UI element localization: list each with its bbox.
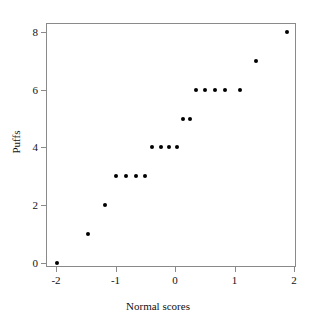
y-axis-tick-label: 6 [18,84,38,96]
normal-probability-plot: -2-101202468 Normal scores Puffs [0,0,316,324]
y-axis-tick-label: 0 [18,257,38,269]
x-axis-tick-label: 1 [223,274,247,286]
x-axis-tick-label: -2 [44,274,68,286]
y-axis-tick-label: 8 [18,26,38,38]
y-axis-tick [41,32,46,33]
x-axis-tick [235,267,236,272]
y-axis-tick [41,90,46,91]
x-axis-label: Normal scores [0,300,316,312]
y-axis-tick-label: 2 [18,199,38,211]
y-axis-tick [41,263,46,264]
plot-frame [46,23,296,267]
y-axis-tick [41,147,46,148]
x-axis-tick-label: -1 [104,274,128,286]
x-axis-tick [294,267,295,272]
x-axis-tick-label: 2 [282,274,306,286]
y-axis-tick [41,205,46,206]
y-axis-label: Puffs [10,112,22,172]
x-axis-tick-label: 0 [163,274,187,286]
x-axis-tick [56,267,57,272]
x-axis-tick [175,267,176,272]
x-axis-tick [116,267,117,272]
